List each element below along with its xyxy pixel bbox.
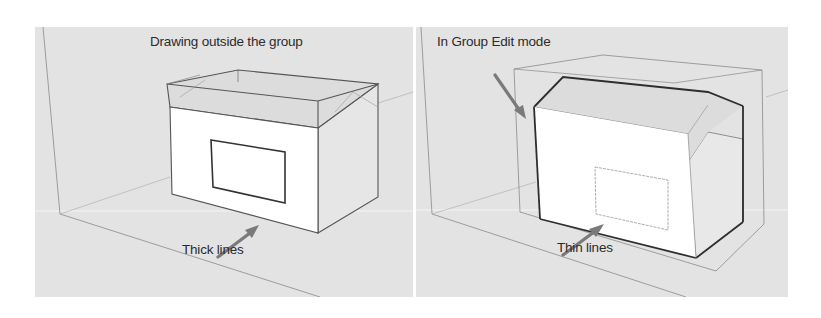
callout-label: Thick lines — [182, 242, 244, 257]
panel-outside-group: Drawing outside the group Thick lines — [35, 27, 413, 297]
panel-group-edit: In Group Edit mode Thin lines — [416, 27, 788, 297]
figure: Drawing outside the group Thick lines — [0, 0, 821, 318]
callout-label: Thin lines — [557, 240, 613, 255]
scene-group-edit — [416, 27, 788, 297]
panel-title: In Group Edit mode — [437, 34, 550, 49]
panel-title: Drawing outside the group — [150, 34, 303, 49]
